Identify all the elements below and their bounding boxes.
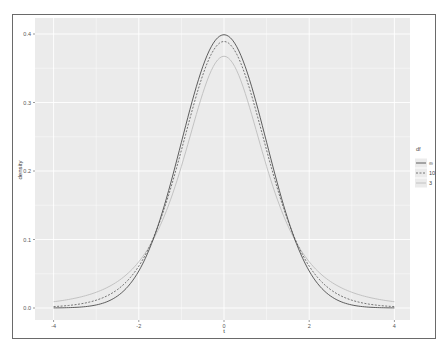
y-tick-label: 0.3 xyxy=(23,100,31,106)
y-axis-title: density xyxy=(17,160,23,179)
density-chart: 0.00.10.20.30.4 -4-2024 t density df ∞10… xyxy=(0,0,448,348)
y-axis: 0.00.10.20.30.4 xyxy=(23,31,35,311)
legend-title: df xyxy=(416,146,421,152)
legend-label: 3 xyxy=(429,180,432,186)
legend: df ∞103 xyxy=(415,146,435,188)
y-tick-label: 0.1 xyxy=(23,237,31,243)
legend-label: 10 xyxy=(429,170,435,176)
x-tick-label: 2 xyxy=(308,323,311,329)
x-tick-label: -4 xyxy=(51,323,56,329)
y-tick-label: 0.4 xyxy=(23,31,31,37)
y-tick-label: 0.0 xyxy=(23,305,31,311)
x-tick-label: -2 xyxy=(136,323,141,329)
x-tick-label: 4 xyxy=(393,323,396,329)
y-tick-label: 0.2 xyxy=(23,168,31,174)
plot-panel xyxy=(35,18,410,320)
legend-label: ∞ xyxy=(429,160,433,166)
